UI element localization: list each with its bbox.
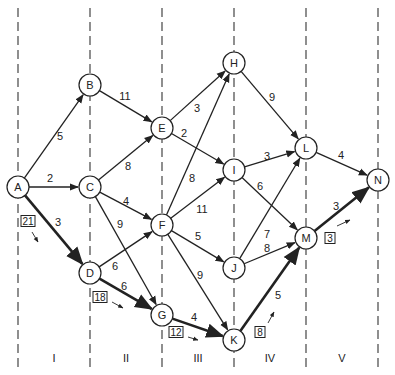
- pointer-arrow-icon: [268, 312, 274, 323]
- node-label: N: [374, 174, 382, 186]
- edge-weight-label: 6: [112, 260, 118, 272]
- edge-weight-label: 9: [269, 91, 275, 103]
- edge-weight-label: 6: [121, 280, 127, 292]
- boxed-value-text: 8: [257, 327, 263, 338]
- node-b: B: [79, 74, 101, 96]
- nodes: ABCDEFGHIJKLMN: [7, 52, 389, 351]
- edge-weight-label: 6: [257, 180, 263, 192]
- node-i: I: [223, 159, 245, 181]
- edge-weight-label: 8: [264, 242, 270, 254]
- node-label: I: [232, 164, 235, 176]
- edge-f-k: [168, 234, 228, 330]
- node-d: D: [79, 262, 101, 284]
- node-label: C: [86, 181, 94, 193]
- node-label: L: [303, 142, 309, 154]
- edge-weight-label: 3: [194, 102, 200, 114]
- edge-weight-label: 3: [333, 200, 339, 212]
- edge-weight-label: 2: [47, 172, 53, 184]
- edge-weight-label: 7: [264, 228, 270, 240]
- node-g: G: [151, 304, 173, 326]
- node-k: K: [223, 329, 245, 351]
- stage-label: III: [193, 352, 202, 364]
- edge-h-l: [241, 71, 298, 138]
- edge-weight-label: 3: [55, 216, 61, 228]
- edge-e-i: [172, 134, 224, 164]
- edge-k-m: [240, 248, 299, 331]
- node-j: J: [223, 257, 245, 279]
- node-label: E: [158, 122, 165, 134]
- node-l: L: [295, 137, 317, 159]
- edge-c-e: [99, 136, 153, 180]
- node-label: G: [158, 309, 167, 321]
- edge-weight-label: 8: [189, 172, 195, 184]
- edge-weight-label: 5: [275, 289, 281, 301]
- edge-weight-label: 9: [197, 269, 203, 281]
- pointer-arrow-icon: [112, 302, 123, 308]
- edge-weight-label: 4: [191, 311, 197, 323]
- edge-weight-label: 4: [338, 149, 344, 161]
- boxed-value-text: 12: [170, 327, 182, 338]
- node-label: B: [86, 79, 93, 91]
- node-label: M: [301, 232, 310, 244]
- edge-weight-label: 4: [123, 195, 129, 207]
- node-a: A: [7, 176, 29, 198]
- stage-label: I: [52, 352, 55, 364]
- stage-boundary-lines: [18, 8, 378, 370]
- stage-label: IV: [265, 352, 276, 364]
- edge-weight-label: 11: [196, 203, 207, 215]
- edge-i-m: [242, 178, 297, 230]
- node-label: A: [14, 181, 22, 193]
- node-c: C: [79, 176, 101, 198]
- pointer-arrow-icon: [188, 337, 198, 340]
- edge-a-d: [25, 195, 82, 263]
- edge-weight-label: 5: [195, 230, 201, 242]
- edge-weight-label: 2: [181, 127, 187, 139]
- node-f: F: [151, 214, 173, 236]
- edge-weight-labels: 52311849663281159493678543: [47, 90, 344, 323]
- edge-d-f: [99, 232, 152, 267]
- stage-label: II: [123, 352, 129, 364]
- boxed-value-text: 3: [327, 233, 333, 244]
- boxed-value-text: 18: [94, 292, 106, 303]
- pointer-arrow-icon: [32, 232, 38, 242]
- edge-weight-label: 11: [119, 90, 130, 102]
- network-diagram: 52311849663281159493678543 21181283 ABCD…: [0, 0, 395, 375]
- node-label: K: [230, 334, 238, 346]
- edge-weight-label: 5: [57, 130, 63, 142]
- edge-weight-label: 8: [125, 160, 131, 172]
- node-label: F: [159, 219, 166, 231]
- edge-weight-label: 9: [117, 218, 123, 230]
- node-m: M: [295, 227, 317, 249]
- node-label: D: [86, 267, 94, 279]
- diagram-svg: 52311849663281159493678543 21181283 ABCD…: [0, 0, 395, 375]
- edge-a-b: [24, 95, 83, 178]
- node-label: H: [230, 57, 238, 69]
- stage-labels: IIIIIIIVV: [52, 352, 346, 364]
- node-e: E: [151, 117, 173, 139]
- edge-weight-label: 3: [264, 150, 270, 162]
- stage-label: V: [338, 352, 346, 364]
- node-n: N: [367, 169, 389, 191]
- pointer-arrow-icon: [337, 220, 350, 226]
- edge-m-n: [315, 188, 369, 232]
- boxed-value-text: 21: [22, 216, 34, 227]
- node-label: J: [231, 262, 237, 274]
- node-h: H: [223, 52, 245, 74]
